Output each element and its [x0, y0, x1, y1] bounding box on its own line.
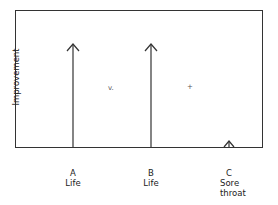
arrow-b [145, 44, 157, 147]
arrow-c [224, 141, 234, 147]
label-b-letter: B [131, 168, 171, 178]
label-c-letter: C [209, 168, 249, 178]
label-a-line1: Life [53, 178, 93, 188]
label-a-letter: A [53, 168, 93, 178]
frame [16, 11, 263, 148]
y-axis-label: Improvement [11, 47, 21, 107]
plus-mark: + [187, 83, 193, 91]
arrow-a [67, 44, 79, 147]
label-c-line1: Sore [209, 178, 249, 188]
label-b: B Life [131, 168, 171, 188]
versus-mark: v. [108, 84, 114, 92]
label-b-line1: Life [131, 178, 171, 188]
label-c: C Sore throat [209, 168, 249, 198]
label-a: A Life [53, 168, 93, 188]
label-c-line2: throat [209, 188, 249, 198]
